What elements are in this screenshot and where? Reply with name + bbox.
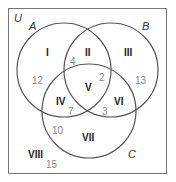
region-label-i: I — [46, 47, 49, 58]
venn-diagram: U A B C I II III IV V VI VII VIII 12 4 1… — [0, 0, 176, 182]
set-label-b: B — [142, 20, 149, 32]
count-i: 12 — [32, 75, 44, 86]
region-label-vi: VI — [114, 96, 124, 107]
universe-label: U — [14, 12, 22, 24]
count-vi: 3 — [102, 106, 108, 117]
region-label-vii: VII — [82, 132, 94, 143]
count-iv: 7 — [68, 106, 74, 117]
count-ii: 4 — [70, 56, 76, 67]
region-label-iv: IV — [56, 96, 66, 107]
region-label-v: V — [85, 82, 92, 93]
count-v: 2 — [99, 72, 105, 83]
set-label-c: C — [128, 148, 136, 160]
region-label-ii: II — [85, 47, 91, 58]
set-label-a: A — [28, 20, 36, 32]
region-label-viii: VIII — [28, 149, 43, 160]
region-label-iii: III — [124, 47, 133, 58]
count-viii: 15 — [46, 159, 58, 170]
count-vii: 10 — [52, 125, 64, 136]
count-iii: 13 — [135, 75, 147, 86]
